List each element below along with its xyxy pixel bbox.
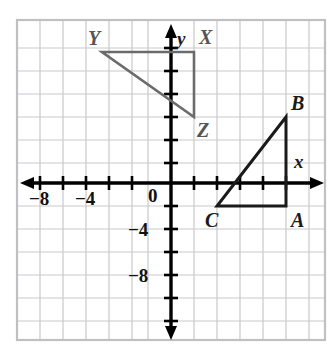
y-axis-name: y [177, 29, 185, 48]
vertex-label-Z: Z [197, 120, 209, 140]
vertex-label-C: C [205, 210, 218, 230]
graph-canvas [0, 0, 332, 355]
x-tick-label-neg4: −4 [75, 189, 95, 208]
x-tick-label-neg8: −8 [29, 189, 49, 208]
origin-label: 0 [148, 186, 158, 205]
vertex-label-B: B [291, 93, 304, 113]
y-tick-label-neg8: −8 [128, 266, 148, 285]
vertex-label-X: X [199, 27, 212, 47]
coordinate-plane-figure: Y X Z B A C y x −8 −4 0 −4 −8 [0, 0, 332, 355]
y-tick-label-neg4: −4 [128, 220, 148, 239]
triangle-abc [217, 117, 286, 206]
vertex-label-A: A [291, 210, 304, 230]
vertex-label-Y: Y [88, 28, 100, 48]
x-axis-name: x [294, 152, 304, 171]
